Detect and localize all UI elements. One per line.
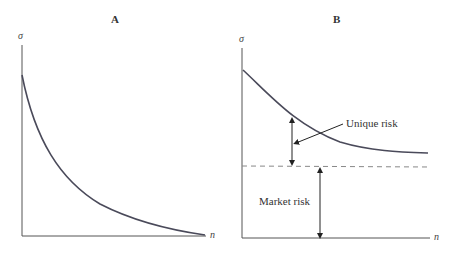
panel-a-curve [22,75,205,235]
panel-b-curve [243,70,428,153]
diagram-canvas [0,0,454,258]
panel-a-title: A [111,13,119,25]
panel-b-x-axis-label: n [434,231,439,242]
panel-a-y-axis-label: σ [18,30,23,41]
market-risk-label: Market risk [259,195,310,207]
panel-b-title: B [333,13,340,25]
panel-b [242,48,430,238]
panel-b-y-axis-label: σ [239,33,244,44]
market-risk-dashed-line [242,166,430,167]
panel-a [22,45,206,236]
panel-a-x-axis-label: n [210,229,215,240]
unique-risk-label: Unique risk [346,117,398,129]
